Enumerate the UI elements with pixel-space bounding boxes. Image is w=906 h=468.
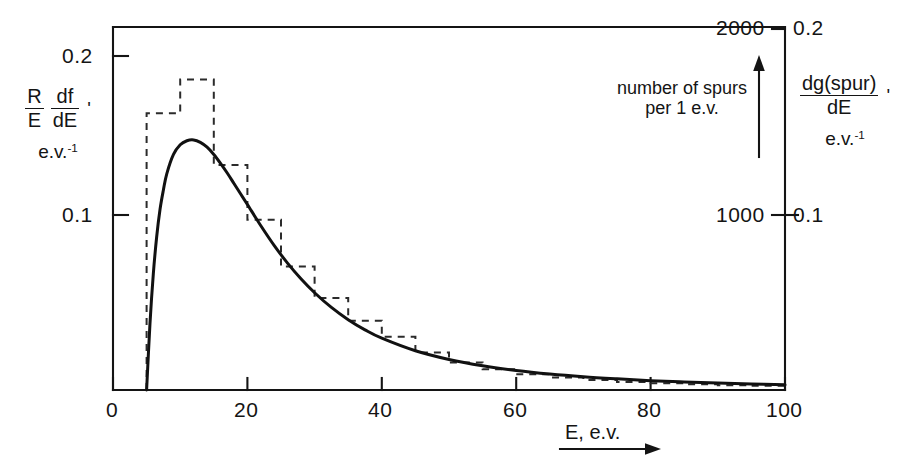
x-tick-label-20: 20 — [234, 399, 258, 421]
y-left-units-text: e.v. — [38, 141, 67, 162]
x-tick-label-100: 100 — [766, 399, 803, 421]
derivative-numerator-df: df — [51, 86, 79, 109]
spurs-note-line-1: number of spurs — [612, 78, 752, 98]
ratio-R-over-E: R E — [25, 86, 43, 131]
y-right-units-exponent: -1 — [854, 128, 864, 141]
energy-right-arrow-icon — [560, 443, 661, 454]
x-axis-title: E, e.v. — [565, 422, 620, 443]
y-axis-right-units: e.v.-1 — [789, 129, 901, 149]
y-axis-left-ticks — [113, 56, 128, 215]
derivative-df-over-dE: df dE — [51, 86, 79, 131]
histogram-dashed-steps — [147, 79, 785, 390]
spur-derivative-numerator: dg(spur) — [800, 73, 878, 96]
x-tick-label-40: 40 — [368, 399, 392, 421]
x-tick-label-0: 0 — [106, 399, 118, 421]
derivative-denominator-dE: dE — [51, 109, 79, 131]
spurs-per-ev-note: number of spurs per 1 e.v. — [612, 78, 752, 118]
spurs-note-line-2: per 1 e.v. — [612, 98, 752, 118]
distribution-curve — [147, 140, 785, 390]
x-tick-label-80: 80 — [637, 399, 661, 421]
y-right-outer-tick-label-0.2: 0.2 — [793, 17, 824, 39]
prime-mark-right: ' — [886, 86, 890, 106]
y-axis-left-title: R E df dE ' e.v.-1 — [10, 86, 106, 162]
y-right-inner-tick-label-2000: 2000 — [716, 17, 765, 39]
x-axis-ticks — [113, 378, 785, 390]
spurs-up-arrow-icon — [753, 55, 765, 157]
y-left-units-exponent: -1 — [67, 141, 77, 154]
figure-container: 0.2 0.1 R E df dE ' e.v.-1 0 20 40 60 80… — [0, 0, 906, 468]
y-left-tick-label-0.1: 0.1 — [62, 204, 93, 226]
spur-derivative-fraction: dg(spur) dE — [800, 73, 878, 118]
ratio-denominator-E: E — [25, 109, 43, 131]
ratio-numerator-R: R — [25, 86, 43, 109]
prime-mark-left: ' — [87, 99, 91, 119]
y-axis-left-units: e.v.-1 — [10, 142, 106, 162]
y-left-tick-label-0.2: 0.2 — [62, 45, 93, 67]
y-right-inner-tick-label-1000: 1000 — [716, 204, 765, 226]
spur-derivative-denominator: dE — [800, 96, 878, 118]
y-right-outer-tick-label-0.1: 0.1 — [793, 204, 824, 226]
y-axis-right-title: dg(spur) dE ' e.v.-1 — [789, 73, 901, 149]
x-tick-label-60: 60 — [503, 399, 527, 421]
y-right-units-text: e.v. — [825, 128, 854, 149]
